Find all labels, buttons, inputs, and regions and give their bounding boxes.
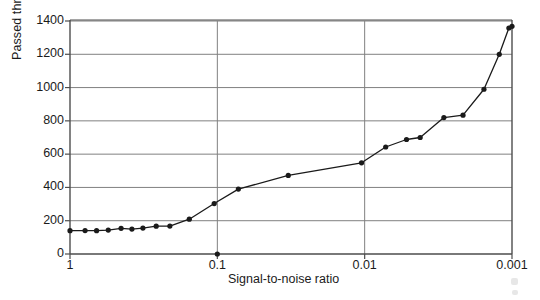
x-tick-label: 0.1 [187,258,247,272]
tick-marks [65,21,512,259]
axis-lines [70,20,512,254]
y-tick-label: 200 [18,213,64,227]
x-tick-label: 0.001 [482,258,540,272]
y-axis-title: Passed through network [10,0,30,60]
y-tick-label: 400 [18,179,64,193]
chart-figure: 0200400600800100012001400 10.10.010.001 … [0,0,540,300]
outlier-markers [215,251,220,256]
scan-artifact-1 [511,278,518,285]
data-point-markers [67,24,514,234]
y-axis-title-text: Passed through network [10,0,24,60]
grid-lines [70,21,512,254]
line-chart-plot [0,0,540,300]
x-axis-title: Signal-to-noise ratio [228,272,339,286]
y-tick-label: 1000 [18,80,64,94]
y-tick-label: 600 [18,146,64,160]
data-series-line [70,26,512,230]
x-tick-label: 1 [40,258,100,272]
x-tick-label: 0.01 [335,258,395,272]
y-tick-label: 800 [18,113,64,127]
scan-artifact-2 [512,290,518,295]
